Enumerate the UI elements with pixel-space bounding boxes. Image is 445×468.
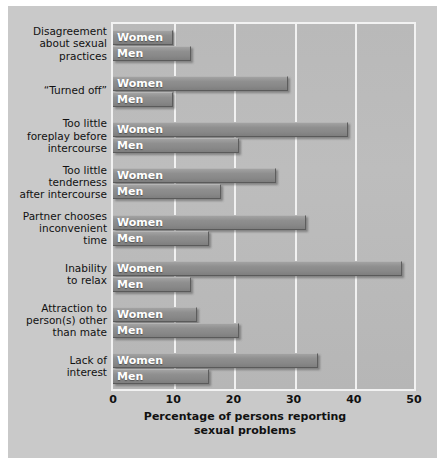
- x-axis-tick-labels: 01020304050: [111, 393, 416, 409]
- plot-area: WomenMenWomenMenWomenMenWomenMenWomenMen…: [111, 22, 416, 391]
- x-tick-30: 30: [286, 393, 301, 406]
- category-label-6-line-2: to relax: [3, 274, 107, 286]
- x-axis-title: Percentage of persons reporting sexual p…: [70, 410, 420, 438]
- category-label-1-line-3: practices: [3, 50, 107, 62]
- category-label-7-line-2: person(s) other: [3, 314, 107, 326]
- bar-group-1-men: Men: [113, 46, 418, 61]
- bar-women-3: [113, 122, 348, 137]
- bar-group-7-men: Men: [113, 323, 418, 338]
- category-label-4-line-2: tenderness: [3, 176, 107, 188]
- category-label-4: Too littletendernessafter intercourse: [3, 164, 107, 201]
- bar-group-8-men: Men: [113, 369, 418, 384]
- category-label-5: Partner choosesinconvenienttime: [3, 210, 107, 247]
- category-axis-labels: Disagreementabout sexualpractices“Turned…: [0, 22, 107, 391]
- bar-women-6: [113, 261, 402, 276]
- bar-women-5: [113, 215, 306, 230]
- x-axis-title-line-1: Percentage of persons reporting: [70, 410, 420, 424]
- bar-men-7: [113, 323, 239, 338]
- bar-women-7: [113, 307, 197, 322]
- bar-group-4-men: Men: [113, 184, 418, 199]
- category-label-5-line-2: inconvenient: [3, 222, 107, 234]
- bar-men-6: [113, 277, 191, 292]
- bar-men-1: [113, 46, 191, 61]
- category-label-4-line-1: Too little: [3, 164, 107, 176]
- bar-group-2-women: Women: [113, 76, 418, 91]
- category-label-1-line-1: Disagreement: [3, 25, 107, 37]
- category-label-7-line-3: than mate: [3, 326, 107, 338]
- bar-men-5: [113, 231, 209, 246]
- bar-group-4-women: Women: [113, 168, 418, 183]
- bar-women-8: [113, 353, 318, 368]
- bar-men-3: [113, 138, 239, 153]
- bar-group-2-men: Men: [113, 92, 418, 107]
- category-label-7-line-1: Attraction to: [3, 302, 107, 314]
- bar-women-2: [113, 76, 288, 91]
- category-label-3-line-1: Too little: [3, 117, 107, 129]
- x-tick-50: 50: [406, 393, 421, 406]
- category-label-1: Disagreementabout sexualpractices: [3, 25, 107, 62]
- bar-women-1: [113, 30, 173, 45]
- bar-group-6-men: Men: [113, 277, 418, 292]
- x-tick-10: 10: [166, 393, 181, 406]
- category-label-7: Attraction toperson(s) otherthan mate: [3, 302, 107, 339]
- bar-group-1-women: Women: [113, 30, 418, 45]
- category-label-6-line-1: Inability: [3, 262, 107, 274]
- category-label-8-line-2: interest: [3, 366, 107, 378]
- category-label-8: Lack ofinterest: [3, 354, 107, 378]
- bar-group-6-women: Women: [113, 261, 418, 276]
- bar-men-2: [113, 92, 173, 107]
- category-label-3-line-2: foreplay before: [3, 130, 107, 142]
- bar-group-8-women: Women: [113, 353, 418, 368]
- category-label-3-line-3: intercourse: [3, 142, 107, 154]
- category-label-1-line-2: about sexual: [3, 37, 107, 49]
- bar-group-5-women: Women: [113, 215, 418, 230]
- category-label-2: “Turned off”: [3, 84, 107, 96]
- category-label-6: Inabilityto relax: [3, 262, 107, 286]
- category-label-3: Too littleforeplay beforeintercourse: [3, 117, 107, 154]
- bar-women-4: [113, 168, 276, 183]
- bar-men-8: [113, 369, 209, 384]
- category-label-4-line-3: after intercourse: [3, 188, 107, 200]
- category-label-5-line-3: time: [3, 234, 107, 246]
- bar-group-7-women: Women: [113, 307, 418, 322]
- bar-group-3-men: Men: [113, 138, 418, 153]
- x-tick-40: 40: [346, 393, 361, 406]
- bar-chart-figure: Disagreementabout sexualpractices“Turned…: [0, 0, 445, 468]
- category-label-2-line-1: “Turned off”: [3, 84, 107, 96]
- bar-men-4: [113, 184, 221, 199]
- x-tick-20: 20: [226, 393, 241, 406]
- category-label-5-line-1: Partner chooses: [3, 210, 107, 222]
- bar-group-5-men: Men: [113, 231, 418, 246]
- bar-group-3-women: Women: [113, 122, 418, 137]
- x-tick-0: 0: [109, 393, 117, 406]
- x-axis-title-line-2: sexual problems: [70, 424, 420, 438]
- category-label-8-line-1: Lack of: [3, 354, 107, 366]
